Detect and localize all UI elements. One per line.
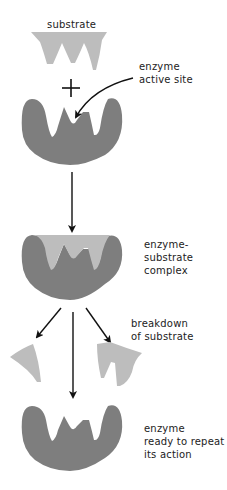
- label-complex-line2: substrate: [144, 251, 193, 264]
- label-complex: enzyme- substrate complex: [144, 238, 193, 277]
- label-active-site-line1: enzyme: [139, 60, 193, 73]
- label-ready: enzyme ready to repeat its action: [144, 422, 224, 461]
- substrate-fragment-left-icon: [10, 344, 41, 382]
- label-breakdown: breakdown of substrate: [131, 317, 194, 343]
- substrate-icon: [31, 32, 107, 70]
- enzyme-ready-icon: [22, 405, 122, 471]
- label-ready-line2: ready to repeat: [144, 435, 224, 448]
- arrow-left: [37, 308, 61, 337]
- label-substrate: substrate: [47, 18, 96, 31]
- label-ready-line1: enzyme: [144, 422, 224, 435]
- complex-icon: [22, 235, 122, 300]
- arrow-right: [86, 308, 110, 342]
- label-complex-line1: enzyme-: [144, 238, 193, 251]
- enzyme-icon: [22, 98, 122, 165]
- plus-icon: [62, 79, 80, 97]
- label-complex-line3: complex: [144, 264, 193, 277]
- label-breakdown-line2: of substrate: [131, 330, 194, 343]
- label-active-site-line2: active site: [139, 73, 193, 86]
- label-substrate-text: substrate: [47, 18, 96, 31]
- substrate-fragment-right-icon: [97, 342, 142, 386]
- label-breakdown-line1: breakdown: [131, 317, 194, 330]
- label-active-site: enzyme active site: [139, 60, 193, 86]
- label-ready-line3: its action: [144, 448, 224, 461]
